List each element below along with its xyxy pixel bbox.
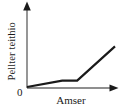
- origin-label: 0: [17, 87, 23, 98]
- y-axis-arrow-icon: [23, 2, 31, 11]
- line-chart: Pellter teithio Amser 0: [0, 0, 121, 111]
- x-axis-arrow-icon: [110, 84, 119, 91]
- y-axis-label: Pellter teithio: [7, 17, 18, 85]
- x-axis-label: Amser: [28, 95, 114, 106]
- data-series-line: [27, 46, 115, 87]
